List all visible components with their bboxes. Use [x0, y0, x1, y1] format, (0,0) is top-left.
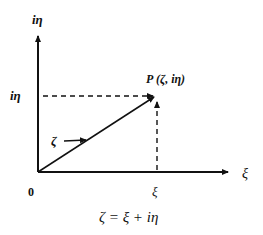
- origin-label: 0: [28, 185, 34, 199]
- x-tick-label: ξ: [152, 184, 158, 199]
- point-label: P (ζ, iη): [146, 72, 185, 86]
- equation: ζ = ξ + iη: [99, 209, 158, 225]
- y-tick-label: iη: [10, 88, 21, 103]
- y-axis-label: iη: [32, 12, 43, 27]
- x-axis-label: ξ: [242, 166, 248, 181]
- vector-pointer-arrow: [64, 140, 86, 141]
- complex-plane-diagram: iη iη P (ζ, iη) ζ ξ 0 ξ ζ = ξ + iη: [0, 0, 263, 235]
- vector-label: ζ: [51, 133, 58, 148]
